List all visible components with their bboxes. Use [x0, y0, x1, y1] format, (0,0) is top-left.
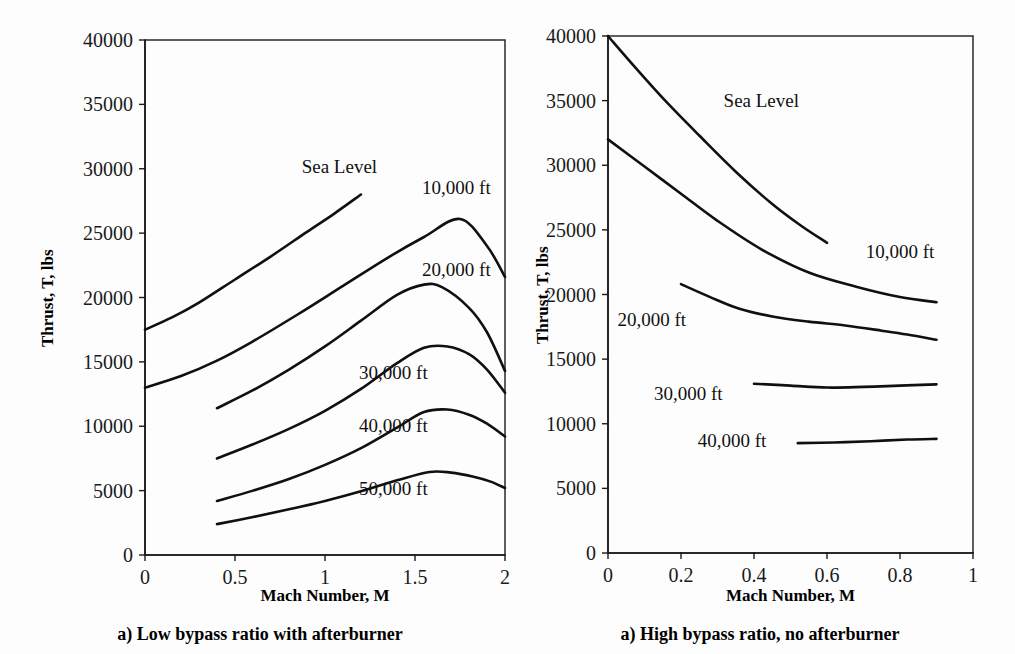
caption-left: a) Low bypass ratio with afterburner	[30, 624, 490, 645]
x-tick-label: 1.5	[403, 566, 428, 588]
y-tick-label: 25000	[83, 222, 133, 244]
series-label: 20,000 ft	[617, 309, 686, 330]
series-label: 20,000 ft	[422, 259, 491, 280]
x-tick-label: 0.4	[742, 564, 767, 586]
series-label: 30,000 ft	[654, 383, 723, 404]
y-axis-title-right: Thrust, T, lbs	[533, 246, 553, 344]
series-label: Sea Level	[302, 156, 377, 177]
series-curve	[681, 284, 937, 340]
y-tick-label: 10000	[83, 415, 133, 437]
y-tick-label: 5000	[556, 477, 596, 499]
y-tick-label: 5000	[93, 480, 133, 502]
x-tick-label: 0.8	[888, 564, 913, 586]
series-label: 30,000 ft	[359, 362, 428, 383]
y-tick-label: 0	[123, 544, 133, 566]
series-label: 10,000 ft	[866, 241, 935, 262]
x-tick-label: 1	[968, 564, 978, 586]
series-curve	[608, 36, 827, 243]
x-tick-label: 0.5	[223, 566, 248, 588]
y-tick-label: 40000	[546, 25, 596, 47]
low-bypass-chart-svg: 0500010000150002000025000300003500040000…	[0, 0, 510, 600]
x-tick-label: 0	[140, 566, 150, 588]
series-curve	[798, 439, 937, 443]
caption-right: a) High bypass ratio, no afterburner	[525, 624, 995, 645]
x-tick-label: 0.2	[669, 564, 694, 586]
y-tick-label: 25000	[546, 219, 596, 241]
y-tick-label: 15000	[546, 348, 596, 370]
y-tick-label: 20000	[83, 287, 133, 309]
series-label: 50,000 ft	[359, 478, 428, 499]
y-tick-label: 20000	[546, 284, 596, 306]
series-curve	[608, 139, 937, 302]
series-curve	[754, 384, 937, 388]
x-tick-label: 1	[320, 566, 330, 588]
chart-panel-low-bypass: 0500010000150002000025000300003500040000…	[0, 0, 510, 654]
figure-page: 0500010000150002000025000300003500040000…	[0, 0, 1015, 654]
axis-lines	[608, 36, 973, 553]
y-tick-label: 35000	[546, 90, 596, 112]
x-tick-label: 0.6	[815, 564, 840, 586]
y-axis-title-left: Thrust, T, lbs	[38, 249, 58, 347]
y-tick-label: 15000	[83, 351, 133, 373]
series-label: 40,000 ft	[359, 415, 428, 436]
y-tick-label: 40000	[83, 29, 133, 51]
chart-panel-high-bypass: 0500010000150002000025000300003500040000…	[505, 0, 1015, 654]
y-tick-label: 35000	[83, 93, 133, 115]
plot-frame	[608, 36, 973, 553]
series-curve	[145, 195, 361, 330]
x-axis-title-right: Mach Number, M	[608, 586, 973, 606]
x-tick-label: 0	[603, 564, 613, 586]
high-bypass-chart-svg: 0500010000150002000025000300003500040000…	[505, 0, 1015, 600]
y-tick-label: 30000	[83, 158, 133, 180]
y-tick-label: 30000	[546, 154, 596, 176]
x-axis-title-left: Mach Number, M	[145, 586, 505, 606]
series-label: 40,000 ft	[698, 430, 767, 451]
series-label: 10,000 ft	[422, 177, 491, 198]
y-tick-label: 0	[586, 542, 596, 564]
y-tick-label: 10000	[546, 413, 596, 435]
series-label: Sea Level	[724, 90, 799, 111]
